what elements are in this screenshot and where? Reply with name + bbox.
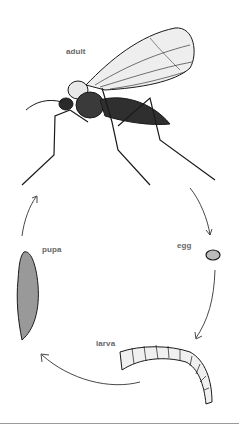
pupa-illustration bbox=[17, 252, 38, 340]
diagram-artwork bbox=[0, 0, 239, 431]
adult-insect-illustration bbox=[22, 28, 215, 185]
arrow-egg-to-larva bbox=[196, 270, 215, 338]
bottom-separator bbox=[0, 423, 239, 424]
stage-label-egg: egg bbox=[177, 241, 192, 250]
stage-label-larva: larva bbox=[96, 339, 115, 348]
stage-label-pupa: pupa bbox=[42, 245, 62, 254]
egg-illustration bbox=[206, 250, 220, 260]
stage-label-adult: adult bbox=[66, 47, 86, 56]
arrow-adult-to-egg bbox=[190, 188, 210, 235]
arrow-pupa-to-adult bbox=[22, 197, 36, 236]
larva-illustration bbox=[120, 345, 212, 404]
